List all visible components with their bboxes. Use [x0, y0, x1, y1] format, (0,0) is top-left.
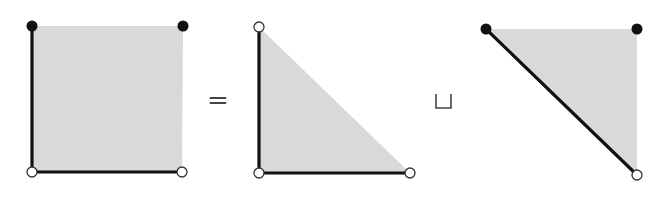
square-shape [27, 21, 189, 178]
lower-left-triangle-shape [254, 22, 415, 178]
open-vertex-icon [405, 168, 415, 178]
decomposition-diagram: = [0, 0, 667, 203]
closed-vertex-icon [178, 21, 189, 32]
disjoint-union-operator [436, 94, 451, 108]
closed-vertex-icon [632, 24, 643, 35]
open-vertex-icon [254, 22, 264, 32]
equals-operator: = [207, 85, 229, 115]
square-fill [32, 26, 183, 172]
open-vertex-icon [632, 170, 642, 180]
disjoint-union-icon [436, 94, 451, 108]
closed-vertex-icon [481, 24, 492, 35]
closed-vertex-icon [27, 21, 38, 32]
open-vertex-icon [27, 167, 37, 177]
open-vertex-icon [254, 168, 264, 178]
triangle-fill [259, 27, 410, 173]
open-vertex-icon [177, 167, 187, 177]
upper-right-triangle-shape [481, 24, 643, 181]
